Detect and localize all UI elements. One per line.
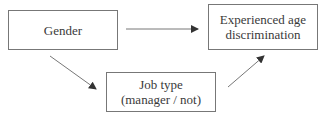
node-gender-label: Gender [44,23,82,38]
node-job-label-line-1: Job type [121,77,201,92]
arrow-job-type-to-age-discrimination [228,56,264,87]
node-gender: Gender [8,10,118,50]
node-age-label-line-2: discrimination [220,27,306,42]
node-experienced-age-discrimination: Experienced age discrimination [208,4,318,50]
node-age-label-line-1: Experienced age [220,12,306,27]
arrow-gender-to-job-type [50,56,96,89]
node-job-type: Job type (manager / not) [106,72,216,112]
node-job-label-line-2: (manager / not) [121,92,201,107]
